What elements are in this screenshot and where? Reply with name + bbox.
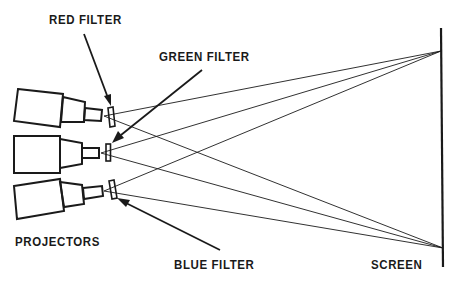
blue-filter-leader xyxy=(126,203,220,250)
green-filter-plate xyxy=(106,144,111,161)
green-filter-arrowhead xyxy=(112,131,124,143)
projector-bottom xyxy=(14,179,103,219)
green-filter-leader xyxy=(121,70,202,135)
projector-diagram: RED FILTER GREEN FILTER PROJECTORS BLUE … xyxy=(0,0,455,285)
blue-filter-plate xyxy=(109,180,117,199)
red-filter-leader xyxy=(84,34,108,98)
projector-top xyxy=(14,89,102,127)
blue-filter-label: BLUE FILTER xyxy=(174,258,255,271)
red-filter-label: RED FILTER xyxy=(49,13,122,26)
light-rays xyxy=(101,51,443,248)
red-filter-arrowhead xyxy=(104,94,111,106)
screen-line xyxy=(441,28,443,267)
projector-middle xyxy=(14,136,99,173)
projectors-label: PROJECTORS xyxy=(15,235,100,248)
screen-label: SCREEN xyxy=(371,258,423,271)
green-filter-label: GREEN FILTER xyxy=(159,50,250,63)
red-filter-plate xyxy=(108,107,115,127)
blue-filter-arrowhead xyxy=(117,198,130,207)
